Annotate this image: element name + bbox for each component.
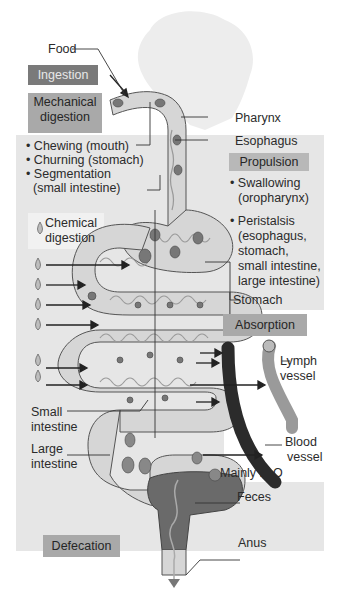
lymph-vessel-label-1: Lymph <box>280 354 317 368</box>
digestive-tract-diagram <box>0 0 352 596</box>
lymph-vessel-label-2: vessel <box>280 369 315 383</box>
small-intestine-label-1: Small <box>31 405 62 419</box>
mechanical-item-churning: • Churning (stomach) <box>26 153 144 167</box>
propulsion-item-1: (oropharynx) <box>238 191 309 205</box>
anus-label: Anus <box>238 536 267 550</box>
defecation-arrow <box>168 579 180 588</box>
propulsion-item-0: • Swallowing <box>230 176 300 190</box>
pharynx-label: Pharynx <box>235 111 281 125</box>
ingestion-label: Ingestion <box>38 68 89 82</box>
stomach-label: Stomach <box>233 293 282 307</box>
absorption-label: Absorption <box>235 318 295 332</box>
esophagus-label: Esophagus <box>235 134 298 148</box>
defecation-box: Defecation <box>43 535 120 557</box>
large-intestine-label-1: Large <box>31 442 63 456</box>
absorption-box: Absorption <box>223 314 307 336</box>
mechanical-item-chewing: • Chewing (mouth) <box>26 139 129 153</box>
mechanical-line2: digestion <box>28 110 102 125</box>
propulsion-box: Propulsion <box>229 153 309 171</box>
enzyme-drops <box>36 222 43 382</box>
chemical-digestion-label-2: digestion <box>45 231 95 245</box>
mechanical-line1: Mechanical <box>28 95 102 110</box>
defecation-label: Defecation <box>52 539 112 553</box>
propulsion-item-5: small intestine, <box>238 259 321 273</box>
mainly-h2o-label: Mainly H2O <box>220 466 283 486</box>
blood-vessel-label-1: Blood <box>285 435 317 449</box>
feces-label: Feces <box>237 490 271 504</box>
mechanical-digestion-box: Mechanical digestion <box>28 93 102 133</box>
large-intestine-label-2: intestine <box>31 457 78 471</box>
blood-vessel-label-2: vessel <box>287 450 322 464</box>
propulsion-label: Propulsion <box>239 155 298 169</box>
chemical-digestion-label-1: Chemical <box>45 216 97 230</box>
propulsion-item-3: (esophagus, <box>238 229 307 243</box>
food-label: Food <box>48 42 77 56</box>
propulsion-item-6: large intestine) <box>238 274 320 288</box>
small-intestine-label-2: intestine <box>31 420 78 434</box>
ingestion-box: Ingestion <box>28 65 98 85</box>
mechanical-item-segmentation-detail: (small intestine) <box>33 181 121 195</box>
propulsion-item-4: stomach, <box>238 244 289 258</box>
mechanical-item-segmentation: • Segmentation <box>26 167 111 181</box>
propulsion-item-2: • Peristalsis <box>230 214 295 228</box>
